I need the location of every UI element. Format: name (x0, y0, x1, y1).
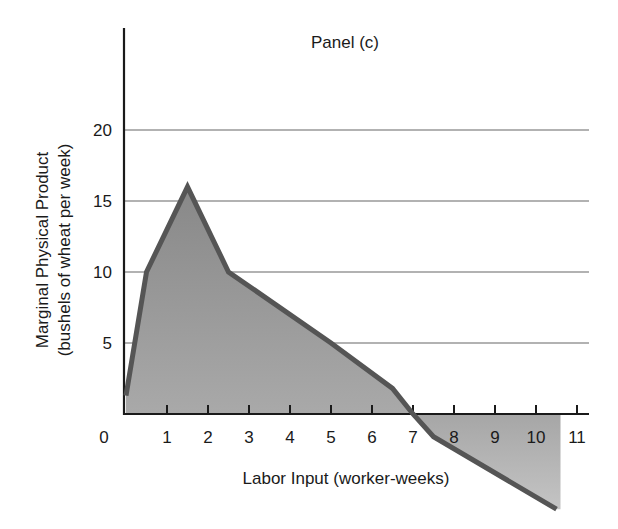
x-tick-label: 5 (326, 428, 335, 447)
x-tick-label: 11 (568, 428, 586, 447)
y-tick-label: 15 (93, 192, 112, 211)
x-tick-label: 7 (408, 428, 417, 447)
y-axis-title: Marginal Physical Product (33, 151, 52, 348)
y-tick-label: 20 (93, 121, 112, 140)
x-tick-label: 9 (490, 428, 499, 447)
x-tick-label: 0 (99, 428, 108, 447)
x-tick-label: 2 (203, 428, 212, 447)
x-axis-title: Labor Input (worker-weeks) (243, 469, 450, 488)
chart: 01234567891011 5101520 Panel (c) Labor I… (0, 0, 618, 529)
x-tick-label: 3 (244, 428, 253, 447)
y-axis-subtitle: (bushels of wheat per week) (55, 144, 74, 357)
x-tick-label: 6 (367, 428, 376, 447)
y-tick-label: 5 (103, 334, 112, 353)
x-tick-label: 1 (162, 428, 171, 447)
x-tick-label: 10 (527, 428, 546, 447)
y-tick-label: 10 (93, 263, 112, 282)
y-axis-ticks: 5101520 (93, 121, 112, 353)
chart-title: Panel (c) (311, 33, 379, 52)
x-tick-label: 4 (285, 428, 294, 447)
